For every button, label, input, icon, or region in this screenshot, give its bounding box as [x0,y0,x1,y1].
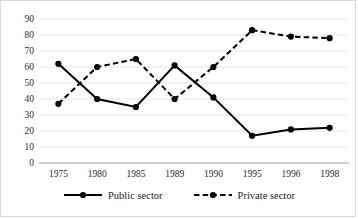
data-point [55,61,61,67]
legend-item-private-sector[interactable]: Private sector [193,189,295,201]
data-point [94,64,100,70]
data-point [172,96,178,102]
y-axis-tick-labels: 9080706050403020100 [25,14,35,168]
legend-swatch-solid [63,189,103,201]
chart-legend: Public sectorPrivate sector [1,184,357,206]
y-tick-label: 40 [25,94,35,104]
data-point [249,27,255,33]
data-point [249,133,255,139]
data-point [94,96,100,102]
x-tick-label: 1998 [320,169,339,179]
data-point [133,104,139,110]
x-tick-label: 1980 [88,169,107,179]
y-tick-label: 60 [25,62,35,72]
x-tick-label: 1989 [165,169,184,179]
y-tick-label: 70 [25,46,35,56]
data-point [210,64,216,70]
chart-frame: 9080706050403020100 19751980198519891990… [0,0,356,217]
x-tick-label: 1996 [281,169,300,179]
x-axis-tick-labels: 19751980198519891990199519961998 [49,169,340,179]
legend-label: Private sector [238,190,295,201]
y-tick-label: 50 [25,78,35,88]
y-tick-label: 30 [25,110,35,120]
y-tick-label: 20 [25,126,35,136]
x-tick-label: 1990 [204,169,223,179]
x-tick-label: 1975 [49,169,68,179]
legend-swatch-dashed [193,189,233,201]
data-point [55,101,61,107]
data-point [210,94,216,100]
y-tick-label: 80 [25,30,35,40]
legend-label: Public sector [108,190,163,201]
y-tick-label: 0 [29,158,34,168]
x-tick-label: 1995 [243,169,262,179]
legend-item-public-sector[interactable]: Public sector [63,189,163,201]
data-point [327,125,333,131]
data-point [288,126,294,132]
data-point [133,56,139,62]
gridlines [39,19,349,163]
data-point [172,62,178,68]
y-tick-label: 90 [25,14,35,24]
x-tick-label: 1985 [126,169,145,179]
y-tick-label: 10 [25,142,35,152]
data-point [288,34,294,40]
data-point [327,35,333,41]
